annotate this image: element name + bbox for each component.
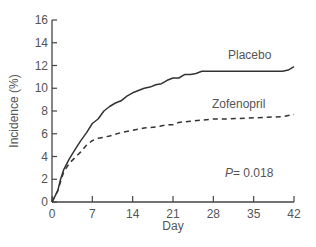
y-tick-label: 2 <box>41 172 48 186</box>
x-tick-label: 42 <box>287 207 301 221</box>
x-tick-label: 28 <box>207 207 221 221</box>
x-tick-label: 35 <box>247 207 261 221</box>
p-symbol: P <box>225 166 233 180</box>
y-tick-label: 8 <box>41 104 48 118</box>
zofenopril-line <box>52 114 294 202</box>
series-lines <box>52 67 294 202</box>
x-tick-label: 14 <box>126 207 140 221</box>
p-value: = 0.018 <box>233 166 274 180</box>
p-value-annotation: P= 0.018 <box>225 166 274 180</box>
x-tick-label: 0 <box>49 207 56 221</box>
incidence-chart: 0246810121416071421283542 Placebo Zofeno… <box>0 0 316 247</box>
placebo-line <box>52 67 294 202</box>
y-axis-title: Incidence (%) <box>7 74 21 147</box>
y-tick-label: 6 <box>41 127 48 141</box>
x-axis-title: Day <box>162 219 183 233</box>
x-tick-label: 7 <box>89 207 96 221</box>
y-tick-label: 10 <box>35 81 49 95</box>
placebo-label: Placebo <box>228 48 272 62</box>
y-tick-label: 14 <box>35 36 49 50</box>
y-tick-label: 12 <box>35 59 49 73</box>
y-tick-label: 4 <box>41 150 48 164</box>
zofenopril-label: Zofenopril <box>212 97 265 111</box>
y-tick-label: 0 <box>41 195 48 209</box>
y-tick-label: 16 <box>35 13 49 27</box>
